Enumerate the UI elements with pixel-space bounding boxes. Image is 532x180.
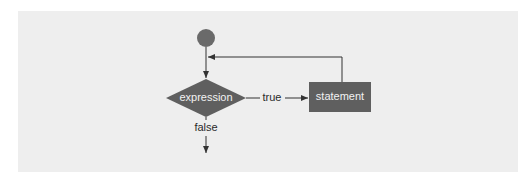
- condition-node: expression: [166, 79, 246, 117]
- statement-label: statement: [316, 90, 364, 102]
- loop-back-arrow: [208, 57, 342, 82]
- statement-node: statement: [309, 82, 371, 112]
- true-edge-label: true: [263, 91, 282, 103]
- condition-label: expression: [179, 91, 232, 103]
- start-node: [197, 29, 215, 47]
- flowchart-diagram: expression true statement false: [0, 0, 532, 180]
- false-edge-label: false: [194, 121, 217, 133]
